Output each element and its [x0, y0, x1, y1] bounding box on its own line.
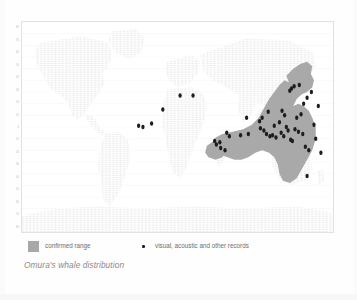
- page-edge-bottom: [0, 294, 357, 300]
- legend: confirmed range visual, acoustic and oth…: [21, 238, 334, 254]
- record-point: [283, 113, 286, 117]
- record-point: [137, 124, 140, 128]
- record-point: [282, 134, 285, 138]
- range-swatch-icon: [28, 241, 39, 252]
- record-point: [302, 101, 305, 105]
- record-point: [141, 125, 144, 129]
- record-point: [280, 108, 283, 112]
- record-point: [261, 115, 264, 119]
- latitude-tick-label: 70: [16, 38, 19, 41]
- record-point: [228, 134, 231, 138]
- record-point: [278, 120, 281, 124]
- record-point: [305, 174, 308, 178]
- figure-caption: Omura's whale distribution: [24, 260, 124, 270]
- record-point: [219, 146, 222, 150]
- record-point: [314, 136, 317, 140]
- record-point: [297, 129, 300, 133]
- record-point: [271, 133, 274, 137]
- record-point: [258, 119, 261, 123]
- latitude-tick-label: 40: [16, 76, 19, 79]
- record-point: [245, 115, 248, 119]
- record-point: [299, 112, 302, 116]
- record-point: [301, 132, 304, 136]
- map-plot-area: [21, 21, 334, 233]
- latitude-tick-label: 80: [16, 225, 19, 228]
- figure-container: 807060504030201001020304050607080: [0, 0, 357, 300]
- record-point: [265, 132, 268, 136]
- latitude-tick-label: 20: [16, 101, 19, 104]
- latitude-tick-label: 10: [16, 113, 19, 116]
- record-point: [161, 107, 164, 111]
- page-edge-right: [353, 0, 357, 300]
- latitude-tick-label: 20: [16, 150, 19, 153]
- latitude-tick-label: 50: [16, 188, 19, 191]
- record-point: [291, 139, 294, 143]
- record-point: [293, 127, 296, 131]
- latitude-tick-label: 70: [16, 213, 19, 216]
- record-point: [310, 90, 313, 94]
- latitude-tick-label: 0: [18, 126, 19, 129]
- record-point: [178, 93, 181, 97]
- latitude-tick-label: 40: [16, 175, 19, 178]
- record-point: [225, 131, 228, 135]
- latitude-tick-label: 10: [16, 138, 19, 141]
- record-point: [273, 124, 276, 128]
- latitude-tick-label: 80: [16, 26, 19, 29]
- record-point: [307, 148, 310, 152]
- world-map: [22, 22, 333, 232]
- record-point: [292, 84, 295, 88]
- legend-label-confirmed-range: confirmed range: [45, 242, 91, 250]
- record-point: [191, 93, 194, 97]
- latitude-tick-label: 60: [16, 200, 19, 203]
- latitude-tick-label: 60: [16, 51, 19, 54]
- legend-item-confirmed-range: confirmed range: [28, 238, 91, 254]
- record-point: [215, 142, 218, 146]
- legend-label-records: visual, acoustic and other records: [155, 242, 249, 250]
- record-point: [319, 150, 322, 154]
- record-point: [259, 126, 262, 130]
- record-point: [239, 133, 242, 137]
- record-point: [305, 96, 308, 100]
- record-point: [295, 115, 298, 119]
- record-point: [312, 122, 315, 126]
- record-point: [247, 132, 250, 136]
- legend-item-records: visual, acoustic and other records: [138, 238, 249, 254]
- latitude-tick-label: 30: [16, 163, 19, 166]
- record-point: [317, 104, 320, 108]
- record-dot-icon: [138, 241, 149, 252]
- record-point: [223, 148, 226, 152]
- latitude-axis: 807060504030201001020304050607080: [4, 21, 20, 233]
- record-point: [267, 110, 270, 114]
- record-point: [150, 121, 153, 125]
- latitude-tick-label: 30: [16, 88, 19, 91]
- latitude-tick-label: 50: [16, 63, 19, 66]
- record-point: [280, 131, 283, 135]
- record-point: [274, 135, 277, 139]
- record-point: [286, 128, 289, 132]
- record-point: [262, 128, 265, 132]
- record-point: [304, 145, 307, 149]
- record-point: [218, 140, 221, 144]
- record-point: [298, 83, 301, 87]
